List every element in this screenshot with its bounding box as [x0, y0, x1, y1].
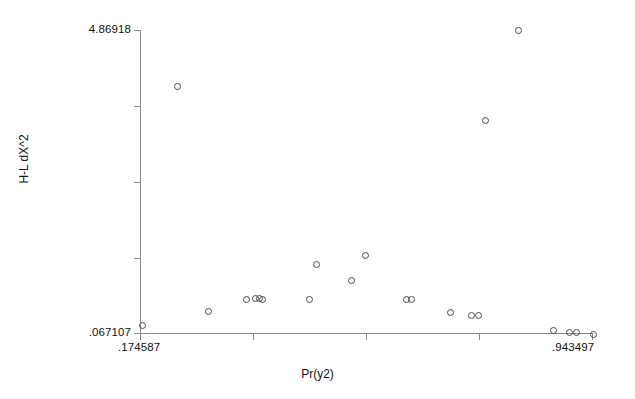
- y-axis-tick-label-min: .067107: [89, 326, 131, 338]
- data-point: [259, 296, 266, 303]
- data-point: [205, 308, 212, 315]
- x-axis-tick-label-max: .943497: [552, 341, 594, 353]
- scatter-plot: 4.86918 .067107 .174587 .943497 H-L dX^2…: [0, 0, 635, 399]
- y-axis-title: H-L dX^2: [17, 104, 31, 214]
- x-tick-1: [253, 334, 254, 340]
- data-point: [348, 277, 355, 284]
- data-point: [475, 312, 482, 319]
- y-tick-0: [134, 30, 140, 31]
- x-tick-3: [479, 334, 480, 340]
- data-point: [313, 261, 320, 268]
- data-point: [482, 117, 489, 124]
- data-point: [590, 331, 597, 338]
- y-axis-tick-label-max: 4.86918: [89, 23, 131, 35]
- data-point: [515, 27, 522, 34]
- data-point: [243, 296, 250, 303]
- y-axis-line: [140, 30, 141, 333]
- y-tick-1: [134, 106, 140, 107]
- x-axis-tick-label-min: .174587: [118, 341, 160, 353]
- data-point: [447, 309, 454, 316]
- data-point: [306, 296, 313, 303]
- data-point: [566, 329, 573, 336]
- x-tick-2: [366, 334, 367, 340]
- data-point: [362, 252, 369, 259]
- data-point: [139, 322, 146, 329]
- data-point: [408, 296, 415, 303]
- data-point: [468, 312, 475, 319]
- x-axis-title: Pr(y2): [0, 367, 635, 381]
- y-tick-3: [134, 258, 140, 259]
- data-point: [573, 329, 580, 336]
- x-tick-0: [140, 334, 141, 340]
- data-point: [550, 327, 557, 334]
- y-tick-2: [134, 182, 140, 183]
- data-point: [174, 83, 181, 90]
